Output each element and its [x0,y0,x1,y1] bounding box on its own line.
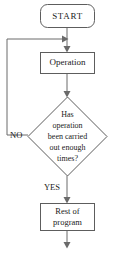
decision-line-3: been carried [48,132,87,141]
edge-label-yes: YES [44,182,60,192]
decision-line-5: times? [57,154,78,163]
decision-line-1: Has [61,110,73,119]
edge-label-no: NO [10,130,22,140]
operation-to-decision-arrowhead [64,91,71,98]
flowchart-canvas: START Operation Has operation been carri… [0,0,113,255]
yes-to-rest-arrowhead [64,197,71,204]
rest-exit-arrowhead [64,242,71,249]
operation-node-label: Operation [50,57,86,67]
rest-of-program-line-2: program [53,217,82,227]
start-node-label: START [52,11,83,21]
rest-of-program-line-1: Rest of [55,206,79,216]
flowchart-diagram: START Operation Has operation been carri… [0,0,113,255]
decision-line-4: out enough [50,143,86,152]
start-to-operation-arrowhead [64,46,71,53]
decision-line-2: operation [52,121,82,130]
no-feedback-arrowhead [62,36,69,43]
